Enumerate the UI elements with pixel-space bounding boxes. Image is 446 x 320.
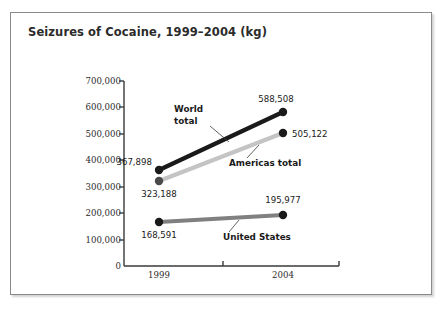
series-annotation-world-total-line2: total bbox=[174, 116, 197, 126]
y-tick-label-700000: 700,000 bbox=[85, 76, 121, 86]
data-point-united-states-2004 bbox=[279, 211, 287, 219]
value-label-united-states-1999: 168,591 bbox=[141, 230, 177, 240]
series-annotation-americas-total: Americas total bbox=[229, 158, 301, 168]
value-label-world-total-2004: 588,508 bbox=[258, 94, 294, 104]
screenshot-root: Seizures of Cocaine, 1999–2004 (kg) 700,… bbox=[0, 0, 446, 320]
data-point-world-total-2004 bbox=[279, 108, 287, 116]
series-annotation-world-total-line1: World bbox=[174, 104, 203, 114]
data-point-united-states-1999 bbox=[155, 218, 163, 226]
x-tick-label-2004: 2004 bbox=[272, 270, 294, 280]
data-point-world-total-1999 bbox=[155, 166, 163, 174]
y-tick-label-100000: 100,000 bbox=[85, 235, 121, 245]
value-label-united-states-2004: 195,977 bbox=[265, 195, 301, 205]
value-label-world-total-1999: 367,898 bbox=[116, 157, 152, 167]
y-tick-label-200000: 200,000 bbox=[85, 208, 121, 218]
value-label-americas-total-1999: 323,188 bbox=[141, 189, 177, 199]
chart-panel: Seizures of Cocaine, 1999–2004 (kg) 700,… bbox=[10, 12, 432, 295]
leader-line-united-states bbox=[229, 220, 239, 232]
y-tick-label-600000: 600,000 bbox=[85, 102, 121, 112]
data-point-americas-total-1999 bbox=[155, 177, 163, 185]
figure-caption bbox=[12, 311, 312, 320]
y-tick-label-0: 0 bbox=[116, 261, 121, 271]
x-axis-ticks bbox=[223, 261, 339, 266]
series-line-united-states bbox=[159, 215, 283, 222]
x-tick-label-1999: 1999 bbox=[148, 270, 170, 280]
series-annotation-united-states: United States bbox=[223, 232, 291, 242]
data-point-americas-total-2004 bbox=[279, 129, 287, 137]
value-label-americas-total-2004: 505,122 bbox=[292, 129, 328, 139]
line-chart-plot: 700,000 600,000 500,000 400,000 300,000 … bbox=[11, 13, 433, 296]
y-tick-label-500000: 500,000 bbox=[85, 129, 121, 139]
y-tick-label-300000: 300,000 bbox=[85, 182, 121, 192]
